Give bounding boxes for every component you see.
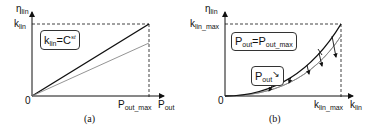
panel-a-x-axis-label: Pout xyxy=(158,100,174,111)
panel-b-plot xyxy=(225,12,353,98)
arrow-5 xyxy=(332,36,336,57)
pout-decreasing-box: Pout↘ xyxy=(251,66,284,86)
gray-line xyxy=(32,43,149,96)
panel-a-y-axis-label: ηlin xyxy=(16,4,29,15)
constant-k-lin-box: klin=Cst xyxy=(40,30,80,50)
panel-a-x-tick-label: Pout_max xyxy=(118,100,152,111)
arrow-3 xyxy=(307,65,309,74)
panel-a-origin-label: 0 xyxy=(25,96,31,106)
panel-a-plot xyxy=(32,12,164,98)
panel-a-caption: (a) xyxy=(84,113,95,124)
panel-a-y-tick-label: klin xyxy=(14,19,26,30)
panel-b-x-tick-label: klin_max xyxy=(314,100,343,111)
panel-b-y-tick-label: klin_max xyxy=(190,19,219,30)
pout-equals-max-box: Pout=Pout_max xyxy=(231,32,297,51)
panel-b-caption: (b) xyxy=(269,113,281,124)
panel-b-y-axis-label: ηlin xyxy=(205,4,218,15)
diagram-canvas xyxy=(0,0,376,133)
panel-b-origin-label: 0 xyxy=(218,96,224,106)
panel-b-x-axis-label: klin xyxy=(350,100,362,111)
decrease-arrow-icon: ↘ xyxy=(272,69,280,79)
